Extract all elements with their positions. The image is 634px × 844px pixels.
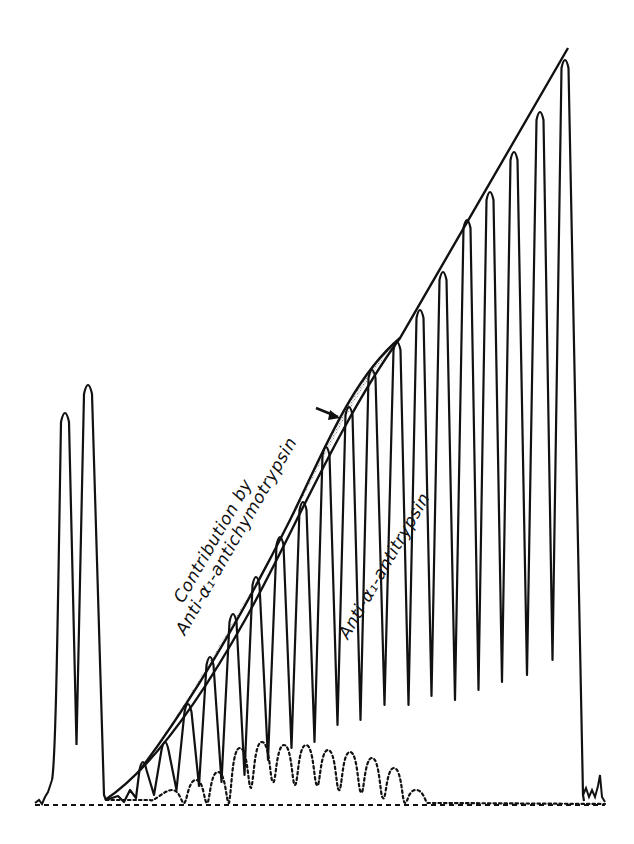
left-twin-peaks [52,385,106,800]
left-start-noise [35,780,52,804]
arrow-icon [316,408,340,420]
antitrypsin-label: Anti-α₁-antitrypsin [334,489,434,643]
main-sweep-trace [106,60,584,802]
densitometric-figure: Contribution by Anti-α₁-antichymotrypsin… [0,0,634,844]
right-end-noise [583,775,605,802]
